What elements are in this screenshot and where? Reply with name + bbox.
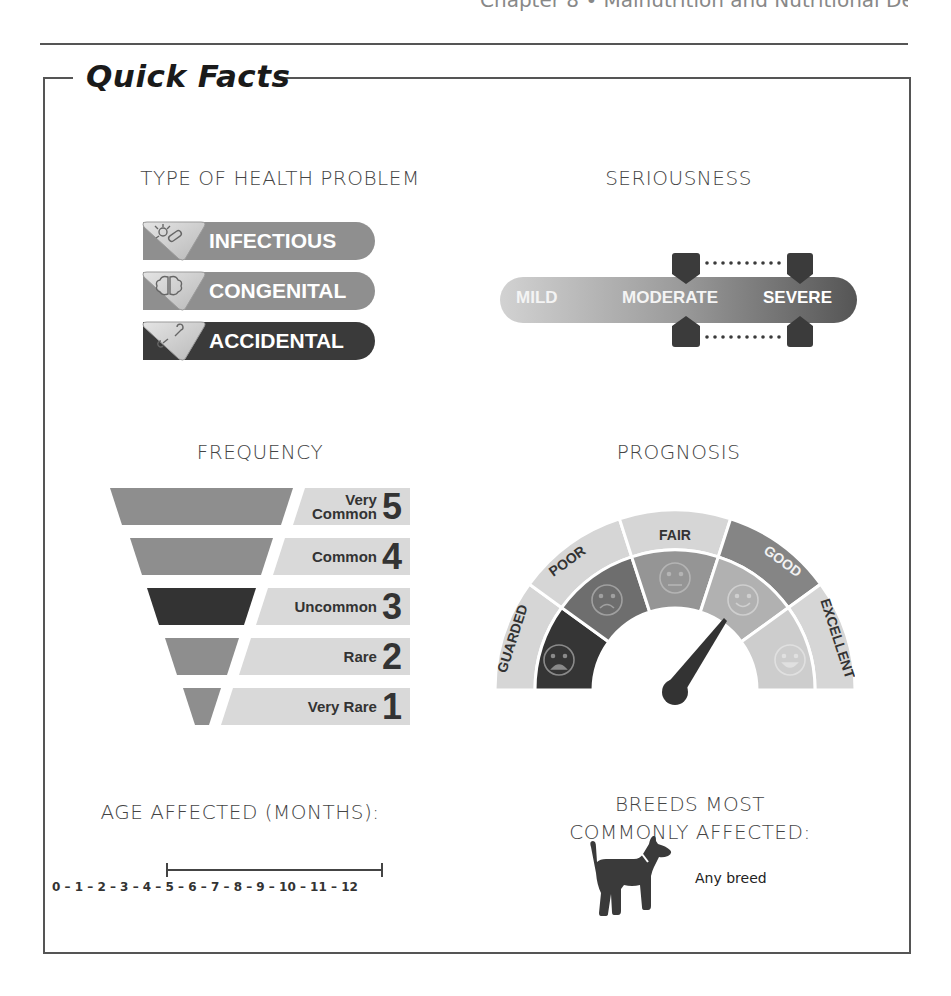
type-congenital: CONGENITAL [143, 272, 375, 310]
frequency-label: Common [312, 507, 377, 521]
frequency-label: Uncommon [294, 600, 377, 614]
frequency-row-2: Rare 2 [240, 638, 410, 675]
box-border-top-right [282, 77, 909, 79]
frequency-row-1: Very Rare 1 [220, 688, 410, 725]
breeds-heading: BREEDS MOST COMMONLY AFFECTED: [520, 790, 860, 846]
prognosis-gauge: GUARDED POOR FAIR GOOD EXCELLENT [495, 500, 855, 715]
frequency-label: Very Rare [308, 700, 377, 714]
gauge-needle [662, 618, 727, 705]
age-heading: AGE AFFECTED (MONTHS): [60, 800, 420, 824]
breeds-heading-line2: COMMONLY AFFECTED: [520, 818, 860, 846]
frequency-heading: FREQUENCY [110, 440, 410, 464]
brain-icon [141, 271, 207, 311]
type-label: ACCIDENTAL [209, 322, 344, 360]
header-rule [40, 43, 908, 45]
seriousness-mild: MILD [516, 288, 558, 308]
seriousness-range-markers [660, 250, 820, 350]
quick-facts-title: Quick Facts [86, 58, 291, 94]
dog-icon [584, 836, 676, 922]
breeds-value: Any breed [695, 870, 767, 886]
prognosis-label-fair: FAIR [659, 527, 691, 543]
frequency-label: Rare [344, 650, 377, 664]
frequency-row-4: Common 4 [280, 538, 410, 575]
frequency-number: 4 [382, 539, 402, 575]
type-accidental: ACCIDENTAL [143, 322, 375, 360]
box-border-top-left [43, 77, 73, 79]
type-heading: TYPE OF HEALTH PROBLEM [110, 166, 450, 190]
age-scale: 0 – 1 – 2 – 3 – 4 – 5 – 6 – 7 – 8 – 9 – … [52, 880, 472, 894]
frequency-row-5: VeryCommon 5 [300, 488, 410, 525]
seriousness-heading: SERIOUSNESS [500, 166, 857, 190]
running-head: Chapter 8 • Malnutrition and Nutritional… [480, 0, 908, 12]
frequency-number: 3 [382, 589, 402, 625]
frequency-number: 2 [382, 639, 402, 675]
broken-bone-icon [141, 321, 207, 361]
frequency-row-3: Uncommon 3 [260, 588, 410, 625]
breeds-heading-line1: BREEDS MOST [520, 790, 860, 818]
frequency-number: 1 [382, 689, 402, 725]
prognosis-heading: PROGNOSIS [500, 440, 857, 464]
type-label: CONGENITAL [209, 272, 346, 310]
frequency-label: Common [312, 550, 377, 564]
type-infectious: INFECTIOUS [143, 222, 375, 260]
frequency-number: 5 [382, 489, 402, 525]
type-label: INFECTIOUS [209, 222, 336, 260]
germ-icon [141, 221, 207, 261]
age-range-bar [160, 862, 390, 878]
